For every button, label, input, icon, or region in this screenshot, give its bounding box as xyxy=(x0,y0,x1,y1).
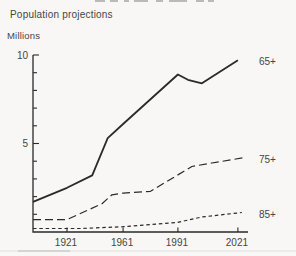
x-axis-tick-label: 1921 xyxy=(55,237,78,248)
series-line-65-plus xyxy=(33,60,238,202)
x-axis-tick-label: 2021 xyxy=(226,237,249,248)
scan-artifact xyxy=(18,250,70,252)
series-label-85-plus: 85+ xyxy=(259,209,276,220)
y-axis-tick-label: 10 xyxy=(17,50,29,61)
x-axis-tick-label: 1991 xyxy=(166,237,189,248)
series-line-85-plus xyxy=(33,213,242,229)
axes xyxy=(33,55,248,232)
chart-figure: Population projections Millions 51019211… xyxy=(0,0,296,256)
series-label-65-plus: 65+ xyxy=(259,56,276,67)
x-axis-tick-label: 1961 xyxy=(111,237,134,248)
series-label-75-plus: 75+ xyxy=(259,154,276,165)
y-axis-tick-label: 5 xyxy=(22,138,28,149)
chart-canvas: 510192119611991202165+75+85+ xyxy=(0,0,296,256)
